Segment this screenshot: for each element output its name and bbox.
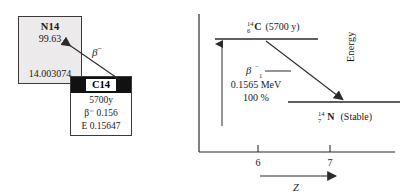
z-tick-label-6: 6 (256, 157, 261, 168)
level-n14-annotation: (Stable) (340, 111, 372, 123)
level-c14-annotation: (5700 y) (265, 21, 299, 33)
transition-energy-beta1: 0.1565 MeV (231, 79, 282, 90)
beta-transition-label: β− (92, 44, 102, 58)
level-n14-element: N (327, 111, 335, 122)
level-label-n14: 14 7 N (Stable) (318, 102, 372, 126)
transition-intensity-beta1: 100 % (243, 92, 269, 103)
level-label-c14: 14 6 C (5700 y) (247, 12, 300, 36)
transition-beta-glyph: β (245, 65, 252, 76)
level-diagram-svg: 6 7 Z 14 6 C (5700 y) 14 7 N (Stable) (190, 0, 405, 193)
transition-symbol-beta1: β − 1 (245, 55, 263, 79)
nuclide-symbol-n14: N14 (19, 21, 81, 32)
nuclide-c14-details: 5700y β⁻ 0.156 E 0.15647 (71, 93, 131, 133)
level-n14-mass-number: 14 (318, 110, 325, 117)
nuclide-cell-c14: C14 5700y β⁻ 0.156 E 0.15647 (70, 76, 132, 136)
nuclide-energy-c14: E 0.15647 (71, 120, 131, 133)
y-axis-label: Energy (345, 32, 356, 63)
level-c14-element: C (254, 21, 261, 32)
nuclide-chart-panel: N14 99.63 14.003074 C14 5700y β⁻ 0.156 E… (0, 0, 190, 193)
transition-beta-superscript: − (255, 63, 259, 70)
decay-scheme-figure: N14 99.63 14.003074 C14 5700y β⁻ 0.156 E… (0, 0, 405, 193)
level-n14-atomic-number: 7 (318, 117, 322, 124)
level-c14-atomic-number: 6 (247, 27, 251, 34)
nuclide-decay-c14: β⁻ 0.156 (71, 107, 131, 120)
transition-beta-subscript: 1 (259, 72, 262, 79)
beta-superscript: − (97, 44, 102, 53)
x-axis-label: Z (293, 182, 299, 193)
energy-level-diagram: 6 7 Z 14 6 C (5700 y) 14 7 N (Stable) (190, 0, 405, 193)
nuclide-half-life-c14: 5700y (71, 94, 131, 107)
level-c14-mass-number: 14 (247, 20, 254, 27)
transition-arrow-beta1-icon (266, 41, 342, 99)
z-tick-label-7: 7 (328, 157, 333, 168)
